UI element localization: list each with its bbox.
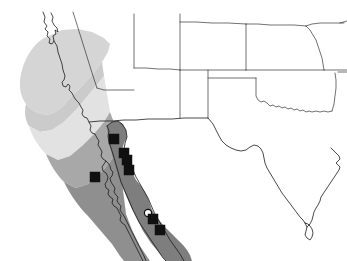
state-border-missouri-north [306, 23, 344, 26]
distribution-map-figure [0, 0, 347, 261]
state-border-colorado-north [180, 22, 246, 24]
locality-marker-3 [122, 155, 132, 165]
locality-marker-4 [124, 165, 134, 175]
state-border-arkansas-west [332, 73, 336, 111]
locality-marker-5 [90, 172, 100, 182]
map-canvas [0, 0, 347, 261]
state-border-oklahoma-texas [256, 78, 332, 112]
locality-marker-7 [148, 214, 158, 224]
texas-gulf-coast [305, 148, 340, 240]
locality-marker-8 [155, 225, 165, 235]
state-border-kansas-north [246, 24, 306, 26]
range-shading-group [20, 29, 192, 261]
state-border-kansas-missouri [306, 26, 324, 70]
state-boundaries-group [73, 12, 347, 118]
rio-grande-border [208, 118, 305, 223]
state-border-utah-arizona [134, 68, 180, 70]
locality-marker-1 [109, 134, 119, 144]
